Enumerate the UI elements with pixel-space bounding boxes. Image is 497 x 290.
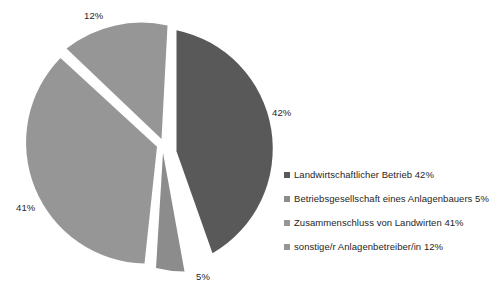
legend-item-betriebsgesellschaft[interactable]: Betriebsgesellschaft eines Anlagenbauers… — [284, 187, 494, 211]
legend-square-marker-icon — [284, 172, 290, 178]
legend-square-marker-icon — [284, 196, 290, 202]
legend-item-sonstige[interactable]: sonstige/r Anlagenbetreiber/in 12% — [284, 235, 494, 259]
pie-data-label-landwirtschaftlicher-betrieb: 42% — [272, 107, 291, 118]
pie-data-label-sonstige: 12% — [84, 10, 103, 21]
pie-slice-landwirtschaftlicher-betrieb — [177, 30, 273, 253]
pie-chart-figure: 12% 42% 41% 5% Landwirtschaftlicher Betr… — [0, 0, 497, 290]
legend-item-label: Zusammenschluss von Landwirten 41% — [294, 211, 464, 235]
pie-data-label-zusammenschluss: 41% — [16, 202, 35, 213]
legend-item-label: Landwirtschaftlicher Betrieb 42% — [294, 163, 434, 187]
legend-item-zusammenschluss[interactable]: Zusammenschluss von Landwirten 41% — [284, 211, 494, 235]
legend-item-label: sonstige/r Anlagenbetreiber/in 12% — [294, 235, 443, 259]
chart-legend: Landwirtschaftlicher Betrieb 42% Betrieb… — [284, 163, 494, 259]
legend-square-marker-icon — [284, 220, 290, 226]
legend-item-label: Betriebsgesellschaft eines Anlagenbauers… — [294, 187, 489, 211]
pie-slice-betriebsgesellschaft-eines-anlagenbauers — [156, 153, 185, 272]
pie-data-label-betriebsgesellschaft: 5% — [196, 271, 210, 282]
legend-item-landwirtschaftlicher-betrieb[interactable]: Landwirtschaftlicher Betrieb 42% — [284, 163, 494, 187]
legend-square-marker-icon — [284, 244, 290, 250]
